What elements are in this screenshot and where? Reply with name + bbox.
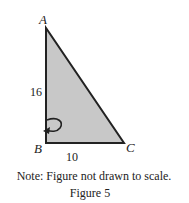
vertex-label-c: C	[126, 140, 135, 155]
triangle-abc	[46, 28, 124, 143]
scale-note: Note: Figure not drawn to scale.	[17, 169, 172, 183]
triangle-figure: A B C 16 10 Note: Figure not drawn to sc…	[0, 0, 189, 203]
side-label-ab: 16	[30, 85, 42, 99]
vertex-label-a: A	[38, 12, 47, 27]
side-label-bc: 10	[66, 150, 78, 164]
figure-caption: Figure 5	[70, 186, 110, 200]
vertex-label-b: B	[34, 141, 42, 156]
